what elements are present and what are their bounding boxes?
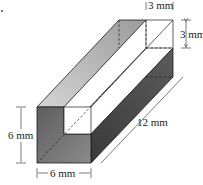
svg-text:3 mm: 3 mm [180, 28, 203, 40]
svg-text:3 mm: 3 mm [148, 0, 174, 11]
svg-text:12 mm: 12 mm [137, 116, 168, 128]
dim-front-width: 6 mm [37, 166, 91, 179]
svg-text:6 mm: 6 mm [50, 167, 76, 179]
dim-notch-width: 3 mm [146, 0, 174, 11]
notched-prism-diagram: 3 mm 3 mm 12 mm 6 mm 6 mm [0, 0, 203, 185]
dim-front-height: 6 mm [6, 107, 34, 163]
dim-notch-height: 3 mm [180, 20, 203, 48]
clipped-mark [1, 10, 3, 12]
svg-text:6 mm: 6 mm [8, 129, 34, 141]
